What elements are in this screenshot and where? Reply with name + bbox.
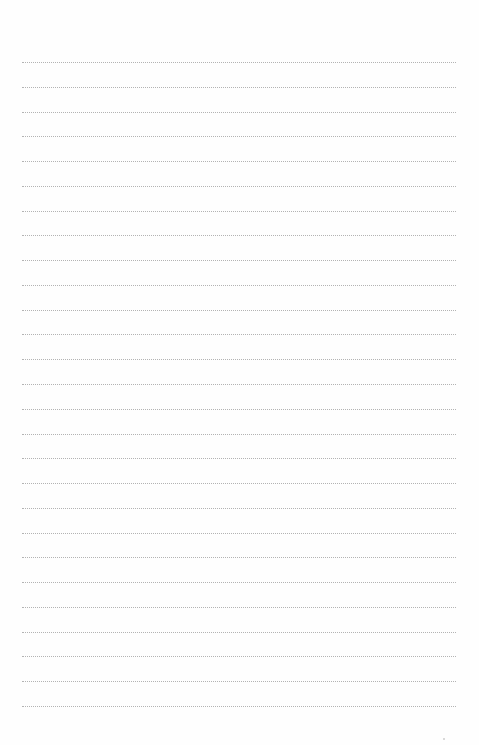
ruled-line <box>22 557 456 558</box>
ruled-line <box>22 656 456 657</box>
ruled-line <box>22 434 456 435</box>
ruled-line <box>22 582 456 583</box>
ruled-line <box>22 62 456 63</box>
ruled-line <box>22 508 456 509</box>
ruled-line <box>22 706 456 707</box>
ruled-line <box>22 235 456 236</box>
ruled-line <box>22 458 456 459</box>
page-mark <box>443 738 445 740</box>
ruled-line <box>22 211 456 212</box>
ruled-line <box>22 483 456 484</box>
ruled-line <box>22 112 456 113</box>
ruled-line <box>22 186 456 187</box>
ruled-line <box>22 359 456 360</box>
ruled-line <box>22 260 456 261</box>
ruled-line <box>22 384 456 385</box>
ruled-line <box>22 161 456 162</box>
ruled-line <box>22 285 456 286</box>
ruled-line <box>22 334 456 335</box>
ruled-line <box>22 533 456 534</box>
ruled-line <box>22 136 456 137</box>
ruled-line <box>22 310 456 311</box>
ruled-line <box>22 632 456 633</box>
ruled-page <box>0 0 479 745</box>
ruled-line <box>22 409 456 410</box>
ruled-line <box>22 87 456 88</box>
ruled-line <box>22 681 456 682</box>
ruled-line <box>22 607 456 608</box>
